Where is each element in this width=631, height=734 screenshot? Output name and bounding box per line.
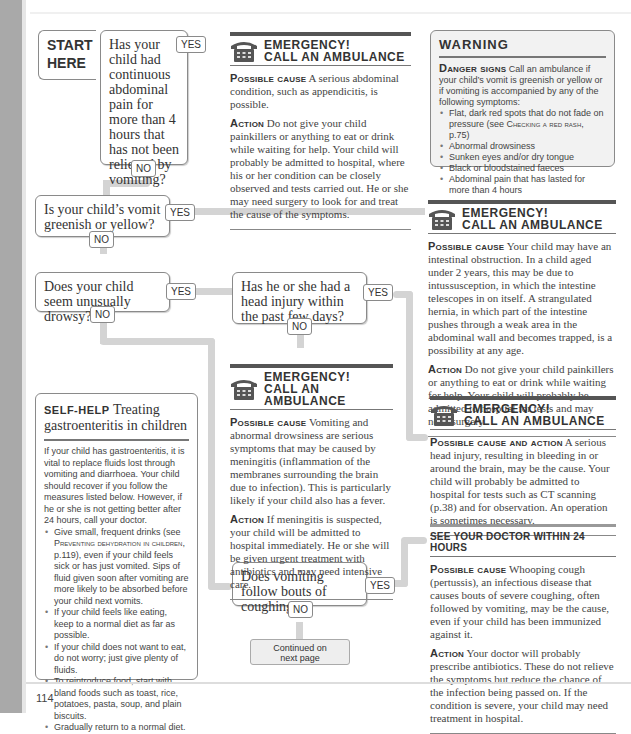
possible-cause-text: Vomiting and abnormal drowsiness are ser… xyxy=(230,416,391,506)
self-help-intro: If your child has gastroenteritis, it is… xyxy=(44,446,189,527)
connector-q3-no-into-q5 xyxy=(208,583,232,590)
warning-box: WARNING Danger signs Call an ambulance i… xyxy=(430,30,615,167)
question-text: Does your child seem unusually drowsy? xyxy=(44,279,133,324)
warning-list: Flat, dark red spots that do not fade on… xyxy=(439,108,606,196)
connector-q4-yes-down xyxy=(406,291,413,441)
cross-reference-link[interactable]: Checking a red rash xyxy=(507,119,582,129)
danger-signs-label: Danger signs xyxy=(439,62,506,74)
question-text: Is your child’s vomit greenish or yellow… xyxy=(44,202,160,232)
warning-item: Abnormal drowsiness xyxy=(439,141,606,152)
page-gutter xyxy=(22,0,26,713)
possible-cause-text: Your child may have an intestinal obstru… xyxy=(428,240,612,356)
possible-cause-and-action-label: Possible cause and action xyxy=(430,436,563,448)
page-number: 114 xyxy=(36,692,54,704)
self-help-box: SELF-HELP Treating gastroenteritis in ch… xyxy=(35,393,198,680)
continued-line1: Continued on xyxy=(251,643,349,653)
answer-yes-q3[interactable]: YES xyxy=(166,283,196,300)
answer-no-q3[interactable]: NO xyxy=(90,306,115,323)
self-help-item: Gradually return to a normal diet. xyxy=(44,722,189,734)
self-help-item: If your child feels like eating, keep to… xyxy=(44,607,189,642)
warning-title: WARNING xyxy=(439,37,606,58)
emergency-title-line2: CALL AN AMBULANCE xyxy=(264,383,393,407)
emergency-title-line2: CALL AN AMBULANCE xyxy=(464,415,605,427)
connector-q5-no xyxy=(296,622,303,639)
possible-cause-text: A serious head injury, resulting in blee… xyxy=(430,436,610,526)
self-help-item: If your child does not want to eat, do n… xyxy=(44,642,189,677)
possible-cause-label: Possible cause xyxy=(428,240,504,252)
start-line2: HERE xyxy=(47,54,96,72)
warning-item: Sunken eyes and/or dry tongue xyxy=(439,152,606,163)
warning-item: Flat, dark red spots that do not fade on… xyxy=(439,108,606,141)
continued-next-page-button[interactable]: Continued on next page xyxy=(250,639,350,665)
connector-q3-yes xyxy=(193,288,233,295)
self-help-item: Give small, frequent drinks (see Prevent… xyxy=(44,527,189,608)
cross-reference-link[interactable]: Preventing dehydration in children xyxy=(54,538,182,548)
action-label: Action xyxy=(428,363,462,375)
answer-no-q5[interactable]: NO xyxy=(288,601,313,618)
answer-no-q2[interactable]: NO xyxy=(89,231,114,248)
question-abdominal-pain: Has your child had continuous abdominal … xyxy=(100,30,188,165)
connector-q4-yes-in xyxy=(406,434,428,441)
emergency-box-abdominal: EMERGENCY!CALL AN AMBULANCE Possible cau… xyxy=(230,32,411,230)
emergency-title-line2: CALL AN AMBULANCE xyxy=(462,219,603,231)
emergency-heading: EMERGENCY!CALL AN AMBULANCE xyxy=(430,400,616,430)
possible-cause-label: Possible cause xyxy=(230,72,306,84)
top-rule xyxy=(30,12,631,14)
emergency-heading: EMERGENCY!CALL AN AMBULANCE xyxy=(428,204,616,234)
telephone-icon xyxy=(230,378,258,400)
possible-cause-label: Possible cause xyxy=(430,563,506,575)
connector-q3-no-down xyxy=(208,338,215,590)
self-help-list: Give small, frequent drinks (see Prevent… xyxy=(44,527,189,734)
action-label: Action xyxy=(230,117,264,129)
action-label: Action xyxy=(430,647,464,659)
question-head-injury: Has he or she had a head injury within t… xyxy=(232,272,367,324)
see-doctor-box: SEE YOUR DOCTOR WITHIN 24 HOURS Possible… xyxy=(430,524,616,734)
answer-yes-q2[interactable]: YES xyxy=(165,204,195,221)
continued-line2: next page xyxy=(251,653,349,663)
see-doctor-title: SEE YOUR DOCTOR WITHIN 24 HOURS xyxy=(430,527,616,557)
emergency-box-meningitis: EMERGENCY!CALL AN AMBULANCE Possible cau… xyxy=(230,364,393,600)
start-line1: START xyxy=(47,36,96,54)
box-bottom-rule xyxy=(230,229,411,230)
answer-no-q4[interactable]: NO xyxy=(287,318,312,335)
warning-item: Abdominal pain that has lasted for more … xyxy=(439,174,606,196)
emergency-title-line2: CALL AN AMBULANCE xyxy=(264,51,405,63)
warning-item: Black or bloodstained faeces xyxy=(439,163,606,174)
emergency-heading: EMERGENCY!CALL AN AMBULANCE xyxy=(230,36,411,66)
footer-rule xyxy=(26,682,631,684)
action-text: Do not give your child painkillers or an… xyxy=(230,117,408,220)
telephone-icon xyxy=(428,208,456,230)
action-label: Action xyxy=(230,513,264,525)
connector-q5-yes-up xyxy=(401,540,408,587)
self-help-kicker: SELF-HELP xyxy=(44,404,110,416)
page-edge-strip xyxy=(0,0,22,713)
telephone-icon xyxy=(230,40,258,62)
box-bottom-rule xyxy=(230,599,393,600)
connector-q3-no-h xyxy=(100,338,215,345)
connector-q5-yes-in xyxy=(401,537,427,544)
emergency-heading: EMERGENCY!CALL AN AMBULANCE xyxy=(230,368,393,410)
possible-cause-label: Possible cause xyxy=(230,416,306,428)
self-help-rule xyxy=(44,439,189,441)
answer-no-q1[interactable]: NO xyxy=(131,160,156,177)
answer-yes-q1[interactable]: YES xyxy=(176,36,206,53)
answer-yes-q4[interactable]: YES xyxy=(363,284,393,301)
start-here-badge: START HERE xyxy=(38,30,96,80)
emergency-box-head-injury: EMERGENCY!CALL AN AMBULANCE Possible cau… xyxy=(430,396,616,536)
telephone-icon xyxy=(430,404,458,426)
